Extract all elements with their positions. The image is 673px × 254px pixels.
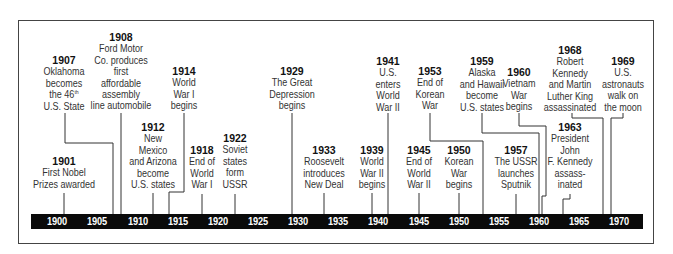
event-1918: 1918 End of World War I <box>187 145 217 191</box>
event-1922: 1922 Soviet states form USSR <box>220 133 249 190</box>
event-1968: 1968 Robert Kennedy and Martin Luther Ki… <box>539 45 600 113</box>
event-text: War II <box>375 102 400 113</box>
connector-1969 <box>611 113 623 214</box>
event-text: assassinated <box>544 102 597 113</box>
event-text: War II <box>406 179 432 190</box>
tick-1940: 1940 <box>360 214 395 229</box>
tick-1970: 1970 <box>601 214 636 229</box>
event-text: line automobile <box>91 100 152 111</box>
event-1963: 1963 President John F. Kennedy assass- i… <box>544 122 597 190</box>
event-text: New Deal <box>303 179 345 190</box>
timeline-axis-bar: 1900 1905 1910 1915 1920 1925 1930 1935 … <box>31 214 643 229</box>
event-text: begins <box>359 179 386 190</box>
event-text: begins <box>444 179 473 190</box>
tick-1900: 1900 <box>39 214 74 229</box>
event-text: begins <box>269 100 315 111</box>
event-1960: 1960 Vietnam War begins <box>500 67 538 113</box>
event-text: begins <box>503 101 536 112</box>
event-1907: 1907 Oklahoma becomes the 46th U.S. Stat… <box>40 55 88 112</box>
event-1929: 1929 The Great Depression begins <box>265 66 318 112</box>
event-text: begins <box>171 100 198 111</box>
tick-1955: 1955 <box>481 214 516 229</box>
tick-1910: 1910 <box>120 214 155 229</box>
event-text: U.S. State <box>43 101 84 112</box>
event-text: the moon <box>602 102 644 113</box>
event-1912: 1912 New Mexico and Arizona become U.S. … <box>125 122 180 190</box>
event-text: USSR <box>222 179 247 190</box>
event-1941: 1941 U.S. enters World War II <box>373 56 402 113</box>
tick-1925: 1925 <box>240 214 275 229</box>
event-text: U.S. states <box>129 179 177 190</box>
tick-1950: 1950 <box>441 214 476 229</box>
event-1957: 1957 The USSR launches Sputnik <box>491 145 541 191</box>
tick-1960: 1960 <box>521 214 556 229</box>
event-1953: 1953 End of Korean War <box>413 66 447 112</box>
tick-1905: 1905 <box>79 214 114 229</box>
tick-1945: 1945 <box>401 214 436 229</box>
tick-1920: 1920 <box>200 214 235 229</box>
tick-1935: 1935 <box>320 214 355 229</box>
event-text: U.S. states <box>460 102 505 113</box>
tick-1915: 1915 <box>160 214 195 229</box>
event-1933: 1933 Roosevelt introduces New Deal <box>300 145 348 191</box>
event-1950: 1950 Korean War begins <box>442 145 476 191</box>
tick-1965: 1965 <box>561 214 596 229</box>
event-text: Prizes awarded <box>33 179 95 190</box>
event-1969: 1969 U.S. astronauts walk on the moon <box>598 56 647 113</box>
tick-1930: 1930 <box>280 214 315 229</box>
event-text: War <box>415 100 444 111</box>
connector-1963 <box>563 194 570 214</box>
event-text: War I <box>189 179 215 190</box>
event-1945: 1945 End of World War II <box>404 145 434 191</box>
event-1914: 1914 World War I begins <box>169 66 200 112</box>
event-1939: 1939 World War II begins <box>357 145 388 191</box>
event-1908: 1908 Ford Motor Co. produces first affor… <box>86 32 157 112</box>
event-text: inated <box>547 179 592 190</box>
event-text: Sputnik <box>494 179 537 190</box>
event-1901: 1901 First Nobel Prizes awarded <box>28 156 100 190</box>
